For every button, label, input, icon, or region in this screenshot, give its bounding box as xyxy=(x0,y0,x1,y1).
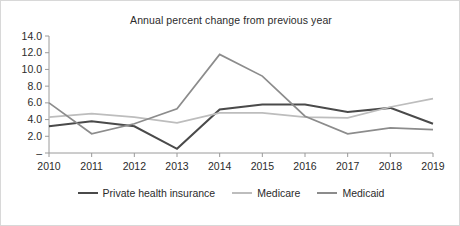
legend-line-icon xyxy=(232,192,252,194)
legend-item-label: Medicaid xyxy=(342,187,384,199)
chart-legend: Private health insuranceMedicareMedicaid xyxy=(1,187,460,199)
x-tick-label: 2018 xyxy=(379,160,403,172)
y-tick-label: 12.0 xyxy=(22,46,43,58)
x-tick-label: 2014 xyxy=(208,160,232,172)
y-tick-label: 10.0 xyxy=(22,63,43,75)
y-tick-label: 4.0 xyxy=(27,113,42,125)
y-tick-label: 14.0 xyxy=(22,30,43,42)
x-axis: 2010201120122013201420152016201720182019 xyxy=(37,153,445,172)
x-tick-label: 2016 xyxy=(293,160,317,172)
y-tick-label: 8.0 xyxy=(27,80,42,92)
legend-item-label: Private health insurance xyxy=(103,187,216,199)
y-tick-label: – xyxy=(36,147,42,159)
legend-line-icon xyxy=(78,192,98,194)
x-tick-label: 2013 xyxy=(165,160,189,172)
x-tick-label: 2011 xyxy=(80,160,103,172)
x-tick-label: 2015 xyxy=(251,160,275,172)
x-tick-label: 2012 xyxy=(123,160,147,172)
legend-line-icon xyxy=(317,192,337,194)
x-tick-label: 2010 xyxy=(37,160,61,172)
x-tick-label: 2019 xyxy=(421,160,445,172)
y-tick-label: 2.0 xyxy=(27,130,42,142)
x-tick-label: 2017 xyxy=(336,160,360,172)
legend-item-label: Medicare xyxy=(257,187,300,199)
chart-figure: Annual percent change from previous year… xyxy=(0,0,460,226)
y-axis: –2.04.06.08.010.012.014.0 xyxy=(22,30,49,159)
series-lines xyxy=(49,54,433,148)
series-line xyxy=(49,54,433,133)
series-line xyxy=(49,99,433,123)
legend-item[interactable]: Medicare xyxy=(232,187,300,199)
y-tick-label: 6.0 xyxy=(27,96,42,108)
legend-item[interactable]: Private health insurance xyxy=(78,187,216,199)
legend-item[interactable]: Medicaid xyxy=(317,187,384,199)
